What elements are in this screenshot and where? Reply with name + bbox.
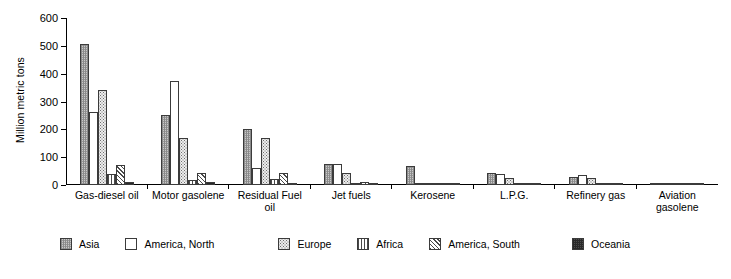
bar: [270, 179, 279, 185]
legend-item-label: America, South: [448, 238, 520, 250]
bar: [351, 183, 360, 185]
x-axis-category-label: Residual Fuel oil: [229, 190, 311, 213]
bar: [125, 182, 134, 185]
bar: [188, 180, 197, 185]
y-axis-tick-label: 300: [40, 96, 58, 108]
y-axis-tick-label: 500: [40, 40, 58, 52]
bar: [668, 183, 677, 185]
bar: [605, 183, 614, 186]
x-axis-category-label: L.P.G.: [474, 190, 556, 213]
bar: [333, 164, 342, 185]
bar: [161, 115, 170, 185]
bar: [523, 183, 532, 185]
bar-chart: Million metric tons 0100200300400500600 …: [0, 0, 731, 279]
bar: [587, 178, 596, 185]
x-axis-group-separator: [473, 185, 474, 189]
y-axis-tick-label: 200: [40, 123, 58, 135]
bar: [279, 173, 288, 185]
legend-item[interactable]: Europe: [278, 238, 331, 250]
x-axis-category-label: Refinery gas: [555, 190, 637, 213]
bar: [342, 173, 351, 185]
bar: [532, 183, 541, 185]
x-axis-category-label: Jet fuels: [311, 190, 393, 213]
bar: [578, 175, 587, 185]
legend-swatch-icon: [125, 238, 137, 250]
bar: [415, 183, 424, 185]
bar-group: [555, 18, 637, 185]
bar-group: [311, 18, 393, 185]
bar: [179, 138, 188, 185]
bar: [496, 174, 505, 185]
bar: [596, 183, 605, 185]
bar: [695, 183, 704, 185]
x-axis-group-separator: [147, 185, 148, 189]
bar: [116, 165, 125, 185]
bar: [243, 129, 252, 186]
bar: [650, 183, 659, 185]
x-axis-category-label: Gas-diesel oil: [66, 190, 148, 213]
y-axis-tick-label: 400: [40, 68, 58, 80]
bar: [89, 112, 98, 185]
legend-swatch-icon: [60, 238, 72, 250]
bar: [324, 164, 333, 185]
bar: [505, 178, 514, 185]
legend-item[interactable]: Oceania: [572, 238, 630, 250]
x-axis-group-separator: [391, 185, 392, 189]
legend-item[interactable]: Africa: [357, 238, 403, 250]
bar: [360, 182, 369, 185]
legend-item-label: Oceania: [591, 238, 630, 250]
legend-swatch-icon: [429, 238, 441, 250]
bar: [107, 174, 116, 185]
x-axis-category-labels: Gas-diesel oilMotor gasoleneResidual Fue…: [66, 190, 718, 213]
bar: [288, 183, 297, 185]
bar-group: [229, 18, 311, 185]
bar: [98, 90, 107, 185]
bar: [433, 183, 442, 185]
legend-swatch-icon: [572, 238, 584, 250]
legend-item[interactable]: America, South: [429, 238, 520, 250]
bar-group: [474, 18, 556, 185]
bar: [686, 183, 695, 185]
bar-group: [637, 18, 719, 185]
y-axis-tick-label: 600: [40, 12, 58, 24]
plot-area: 0100200300400500600: [66, 18, 718, 185]
legend-item-label: America, North: [144, 238, 214, 250]
legend-item-label: Africa: [376, 238, 403, 250]
bar: [252, 168, 261, 185]
x-axis-group-separator: [228, 185, 229, 189]
bar: [514, 183, 523, 185]
y-axis-tick-label: 100: [40, 151, 58, 163]
bar: [487, 173, 496, 185]
bar: [424, 183, 433, 186]
y-axis-title: Million metric tons: [10, 0, 30, 40]
y-axis-tick-label: 0: [52, 179, 58, 191]
bar: [80, 44, 89, 185]
x-axis-category-label: Motor gasolene: [148, 190, 230, 213]
bar: [614, 183, 623, 185]
bar: [170, 81, 179, 185]
bar: [406, 166, 415, 185]
bar-group: [148, 18, 230, 185]
x-axis-group-separator: [310, 185, 311, 189]
bar: [659, 183, 668, 185]
legend-item-label: Asia: [79, 238, 99, 250]
x-axis-group-separator: [636, 185, 637, 189]
legend-swatch-icon: [357, 238, 369, 250]
legend-swatch-icon: [278, 238, 290, 250]
bar: [677, 183, 686, 185]
x-axis-category-label: Aviation gasolene: [637, 190, 719, 213]
y-axis-tick: [61, 185, 66, 186]
bar: [451, 183, 460, 185]
bar: [261, 138, 270, 185]
legend-item[interactable]: America, North: [125, 238, 214, 250]
bar-group: [66, 18, 148, 185]
x-axis-category-label: Kerosene: [392, 190, 474, 213]
bar: [442, 183, 451, 185]
bar: [369, 183, 378, 185]
bar: [197, 173, 206, 185]
bar-groups: [66, 18, 718, 185]
legend-item[interactable]: Asia: [60, 238, 99, 250]
bar: [569, 177, 578, 185]
x-axis-group-separator: [554, 185, 555, 189]
chart-legend: AsiaAmerica, NorthEuropeAfricaAmerica, S…: [60, 238, 720, 250]
